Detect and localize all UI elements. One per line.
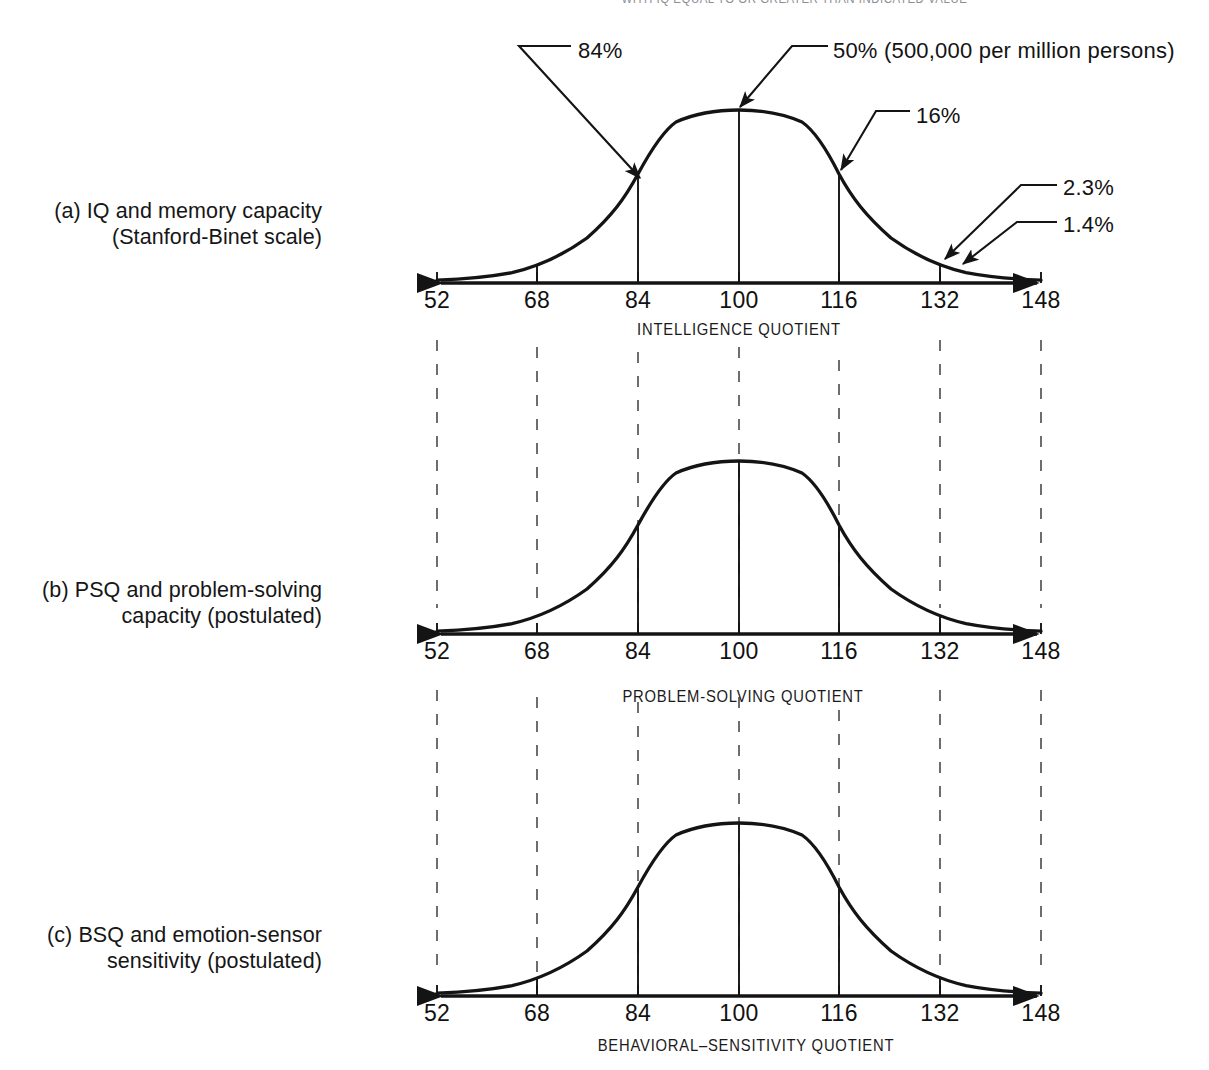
panel-a-tick-label: 116 <box>809 288 869 312</box>
panel-a-tick-label: 148 <box>1011 288 1071 312</box>
annotation-label-1-4-percent: 1.4% <box>1063 213 1114 237</box>
annotation-label-50-percent: 50% (500,000 per million persons) <box>833 39 1175 63</box>
panel-b-tick-label: 68 <box>507 639 567 663</box>
panel-b-tick-label: 84 <box>608 639 668 663</box>
panel-b-tick-label: 116 <box>809 639 869 663</box>
annotation-label-16-percent: 16% <box>916 104 961 128</box>
panel-c-tick-label: 132 <box>910 1001 970 1025</box>
panel-b-row-label: (b) PSQ and problem-solving capacity (po… <box>10 551 322 655</box>
panel-c-tick-label: 68 <box>507 1001 567 1025</box>
panel-b-tick-label: 132 <box>910 639 970 663</box>
panel-a-drop-lines <box>537 110 940 283</box>
panel-c-row-label: (c) BSQ and emotion-sensor sensitivity (… <box>10 896 322 1000</box>
panel-b-tick-label: 148 <box>1011 639 1071 663</box>
panel-c-tick-label: 84 <box>608 1001 668 1025</box>
panel-a-tick-label: 52 <box>407 288 467 312</box>
panel-b-tick-label: 52 <box>407 639 467 663</box>
panel-a-row-label-line1: (a) IQ and memory capacity <box>54 199 322 223</box>
panel-c-row-label-line1: (c) BSQ and emotion-sensor <box>47 923 322 947</box>
panel-c-row-label-line2: sensitivity (postulated) <box>10 948 322 974</box>
panel-b-row-label-line2: capacity (postulated) <box>10 603 322 629</box>
callout-leader-50 <box>740 46 828 107</box>
panel-c-axis-caption: BEHAVIORAL–SENSITIVITY QUOTIENT <box>589 1036 902 1056</box>
panel-b-tick-label: 100 <box>709 639 769 663</box>
panel-a-tick-label: 84 <box>608 288 668 312</box>
panel-a-tick-label: 100 <box>709 288 769 312</box>
panel-c-tick-label: 116 <box>809 1001 869 1025</box>
panel-a-tick-label: 68 <box>507 288 567 312</box>
panel-a-tick-label: 132 <box>910 288 970 312</box>
annotation-label-2-3-percent: 2.3% <box>1063 176 1114 200</box>
panel-b-axis-caption: PROBLEM-SOLVING QUOTIENT <box>599 687 886 707</box>
panel-b-drop-lines <box>638 461 940 634</box>
panel-c-tick-label: 148 <box>1011 1001 1071 1025</box>
panel-c-tick-label: 100 <box>709 1001 769 1025</box>
panel-a-row-label-line2: (Stanford-Binet scale) <box>10 224 322 250</box>
panel-a-plot <box>437 46 1057 283</box>
panel-c-drop-lines <box>537 823 940 996</box>
panel-c-plot <box>437 823 1041 996</box>
annotation-label-84-percent: 84% <box>578 39 623 63</box>
panel-a-axis-caption: INTELLIGENCE QUOTIENT <box>609 320 870 340</box>
callout-leader-84 <box>519 46 640 178</box>
panel-a-row-label: (a) IQ and memory capacity (Stanford-Bin… <box>10 172 322 276</box>
panel-c-tick-label: 52 <box>407 1001 467 1025</box>
panel-b-plot <box>437 461 1041 634</box>
panel-b-row-label-line1: (b) PSQ and problem-solving <box>42 578 322 602</box>
figure-root: WITH IQ EQUAL TO OR GREATER THAN INDICAT… <box>0 0 1209 1070</box>
callout-leader-16 <box>841 111 910 170</box>
